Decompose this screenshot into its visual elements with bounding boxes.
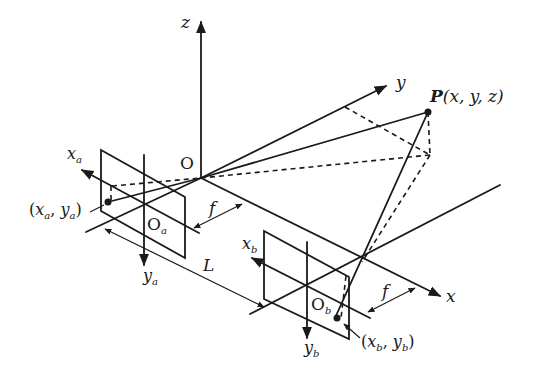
oa-label: Oa bbox=[147, 216, 167, 233]
image-point-b bbox=[334, 315, 341, 322]
focal-length-a-arrow bbox=[194, 204, 242, 228]
xa-axis-label: xa bbox=[67, 146, 82, 162]
proj-p-vertical bbox=[428, 112, 430, 155]
z-axis-label: z bbox=[181, 14, 190, 31]
image-point-a bbox=[105, 199, 112, 206]
baseline-label: L bbox=[203, 257, 214, 274]
yb-axis-label: yb bbox=[304, 340, 319, 356]
proj-foot-to-xaxis bbox=[362, 155, 430, 262]
image-point-a-label: (xa, ya) bbox=[29, 202, 82, 218]
point-p-label: P(x, y, z) bbox=[430, 88, 504, 105]
focal-length-b-label: f bbox=[382, 283, 388, 300]
point-p bbox=[425, 109, 432, 116]
point-p-name: P bbox=[430, 86, 443, 106]
proj-o-to-foot bbox=[201, 155, 430, 178]
x-axis-label: x bbox=[446, 288, 456, 305]
stereo-geometry-diagram bbox=[0, 0, 533, 385]
focal-length-a-label: f bbox=[209, 200, 215, 217]
ob-label: Ob bbox=[311, 296, 331, 313]
y-axis-label: y bbox=[396, 74, 406, 91]
focal-length-b-arrow bbox=[368, 288, 415, 312]
point-p-coords: (x, y, z) bbox=[443, 86, 504, 106]
image-plane-a bbox=[101, 150, 185, 258]
ray-o-to-a bbox=[108, 178, 201, 202]
ya-axis-label: ya bbox=[143, 268, 158, 284]
image-point-b-label: (xb, yb) bbox=[361, 334, 415, 350]
leader-b bbox=[344, 324, 360, 338]
optical-axis-b bbox=[250, 185, 500, 314]
xa-axis bbox=[82, 170, 199, 233]
origin-label: O bbox=[180, 155, 194, 172]
xb-axis-label: xb bbox=[242, 236, 257, 252]
